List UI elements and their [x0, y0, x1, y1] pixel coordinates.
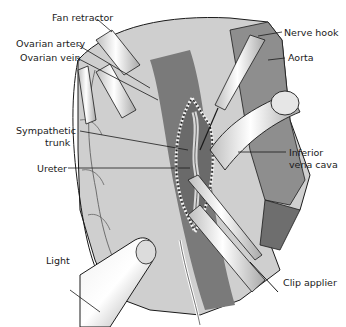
label-sympathetic-trunk-line1: Sympathetic: [16, 125, 76, 136]
label-ovarian-vein: Ovarian vein: [20, 52, 80, 63]
label-fan-retractor: Fan retractor: [52, 12, 113, 23]
label-aorta: Aorta: [288, 52, 314, 63]
label-light: Light: [46, 255, 70, 266]
surgical-illustration: Fan retractor Ovarian artery Ovarian vei…: [0, 0, 346, 327]
label-inferior-vena-cava-line1: Inferior: [289, 147, 323, 158]
label-ovarian-artery: Ovarian artery: [16, 38, 85, 49]
label-sympathetic-trunk-line2: trunk: [45, 137, 70, 148]
label-inferior-vena-cava-line2: vena cava: [289, 159, 338, 170]
label-ureter: Ureter: [37, 163, 67, 174]
label-nerve-hook: Nerve hook: [284, 27, 339, 38]
label-clip-applier: Clip applier: [283, 277, 337, 288]
